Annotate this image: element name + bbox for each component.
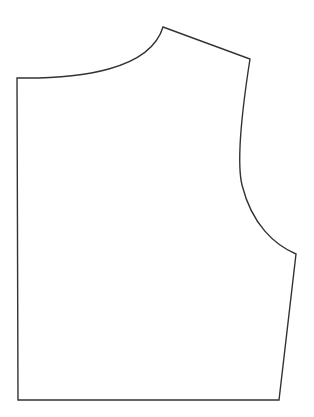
bodice-pattern-diagram	[0, 0, 314, 417]
bodice-outline	[17, 27, 296, 400]
pattern-canvas	[0, 0, 314, 417]
